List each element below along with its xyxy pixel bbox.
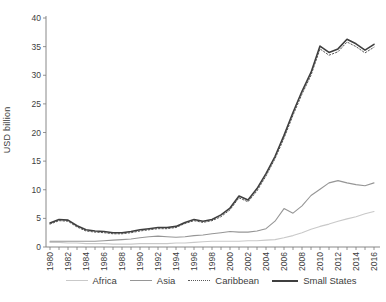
legend-item-small-states: Small States — [272, 275, 356, 286]
legend-label-asia: Asia — [157, 275, 175, 286]
legend: AfricaAsiaCaribbeanSmall States — [40, 275, 382, 286]
x-tick-label-1996: 1996 — [189, 252, 199, 271]
x-tick-label-1998: 1998 — [207, 252, 217, 271]
legend-swatch-asia — [130, 280, 152, 281]
x-tick-label-1982: 1982 — [63, 252, 73, 271]
y-tick-label-35: 35 — [32, 42, 42, 52]
y-tick-label-10: 10 — [32, 185, 42, 195]
y-tick-label-15: 15 — [32, 156, 42, 166]
legend-item-asia: Asia — [130, 275, 175, 286]
legend-item-caribbean: Caribbean — [188, 275, 259, 286]
x-tick-label-2016: 2016 — [369, 252, 379, 271]
y-tick-label-30: 30 — [32, 70, 42, 80]
x-tick-label-1988: 1988 — [117, 252, 127, 271]
legend-label-caribbean: Caribbean — [215, 275, 259, 286]
x-tick-label-2000: 2000 — [225, 252, 235, 271]
x-tick-label-1990: 1990 — [135, 252, 145, 271]
chart-figure: 0510152025303540198019821984198619881990… — [0, 0, 386, 302]
x-tick-label-2002: 2002 — [243, 252, 253, 271]
x-tick-label-1992: 1992 — [153, 252, 163, 271]
legend-swatch-caribbean — [188, 280, 210, 281]
x-tick-label-1994: 1994 — [171, 252, 181, 271]
x-tick-label-2014: 2014 — [351, 252, 361, 271]
series-line-small-states — [50, 39, 374, 233]
plot-area: 0510152025303540198019821984198619881990… — [0, 0, 386, 302]
x-tick-label-2010: 2010 — [315, 252, 325, 271]
x-tick-label-2006: 2006 — [279, 252, 289, 271]
series-line-caribbean — [50, 42, 374, 234]
y-tick-label-0: 0 — [36, 242, 41, 252]
y-tick-label-5: 5 — [36, 213, 41, 223]
x-tick-label-2008: 2008 — [297, 252, 307, 271]
legend-swatch-africa — [66, 280, 88, 281]
y-axis-title: USD billion — [2, 100, 12, 160]
y-tick-label-25: 25 — [32, 99, 42, 109]
x-tick-label-1984: 1984 — [81, 252, 91, 271]
x-tick-label-1986: 1986 — [99, 252, 109, 271]
legend-swatch-small-states — [272, 280, 298, 282]
x-tick-label-2012: 2012 — [333, 252, 343, 271]
series-line-africa — [50, 212, 374, 245]
y-tick-label-20: 20 — [32, 128, 42, 138]
x-tick-label-1980: 1980 — [45, 252, 55, 271]
y-tick-label-40: 40 — [32, 13, 42, 23]
legend-label-small-states: Small States — [303, 275, 356, 286]
x-tick-label-2004: 2004 — [261, 252, 271, 271]
legend-label-africa: Africa — [93, 275, 117, 286]
legend-item-africa: Africa — [66, 275, 117, 286]
